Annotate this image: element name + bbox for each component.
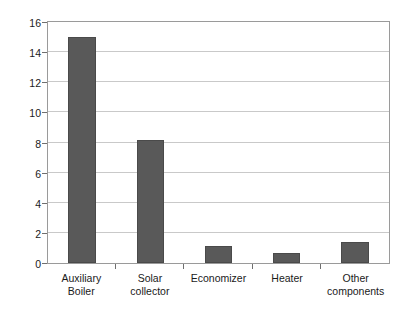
gridline — [48, 232, 389, 233]
gridline — [48, 81, 389, 82]
bar — [68, 37, 95, 263]
bar — [137, 140, 164, 264]
bar — [205, 246, 232, 263]
x-axis-tick-mark — [320, 264, 321, 269]
x-axis-tick-mark — [115, 264, 116, 269]
x-axis-category-label-line: Auxiliary — [47, 272, 116, 285]
x-axis-category-label: AuxiliaryBoiler — [47, 272, 116, 306]
gridline — [48, 202, 389, 203]
x-axis-category-label: Othercomponents — [321, 272, 390, 306]
x-axis-category-label-line: components — [321, 285, 390, 298]
bar — [273, 253, 300, 263]
x-axis-category-label: Heater — [253, 272, 322, 306]
bar — [341, 242, 368, 263]
x-axis-category-labels: AuxiliaryBoilerSolarcollectorEconomizerH… — [47, 272, 390, 306]
x-axis-tick-mark — [183, 264, 184, 269]
gridline — [48, 172, 389, 173]
gridline — [48, 111, 389, 112]
gridline — [48, 142, 389, 143]
x-axis-category-label-line: Other — [321, 272, 390, 285]
plot-area — [47, 21, 390, 264]
x-axis-category-label-line: Economizer — [184, 272, 253, 285]
x-axis-tick-mark — [252, 264, 253, 269]
x-axis-category-label-line: Solar — [116, 272, 185, 285]
x-axis-category-label-line: Heater — [253, 272, 322, 285]
x-axis-tick-marks — [47, 264, 390, 270]
x-axis-category-label: Economizer — [184, 272, 253, 306]
x-axis-category-label: Solarcollector — [116, 272, 185, 306]
y-axis-tick-marks — [0, 21, 47, 264]
x-axis-category-label-line: Boiler — [47, 285, 116, 298]
x-axis-category-label-line: collector — [116, 285, 185, 298]
bar-chart-figure: Exergy destruction rate (kW) 02468101214… — [0, 0, 407, 313]
gridline — [48, 51, 389, 52]
